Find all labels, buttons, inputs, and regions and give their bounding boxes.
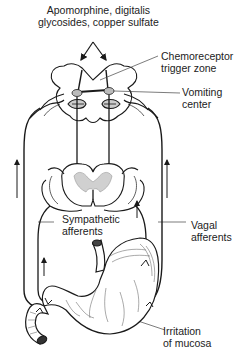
sympathetic-afferents-label: Sympathetic afferents <box>62 213 120 237</box>
vomiting-center-label: Vomiting center <box>182 86 222 110</box>
brainstem-section <box>30 64 158 123</box>
ctz-label: Chemoreceptor trigger zone <box>161 50 233 74</box>
irritation-of-mucosa-label: Irritation of mucosa <box>163 325 211 349</box>
emetic-arrows <box>81 42 106 60</box>
spinal-cord-section <box>42 164 144 212</box>
vagal-afferents-label: Vagal afferents <box>191 219 232 243</box>
stomach <box>26 238 159 346</box>
emetics-label: Apomorphine, digitalis glycosides, coppe… <box>38 4 159 28</box>
